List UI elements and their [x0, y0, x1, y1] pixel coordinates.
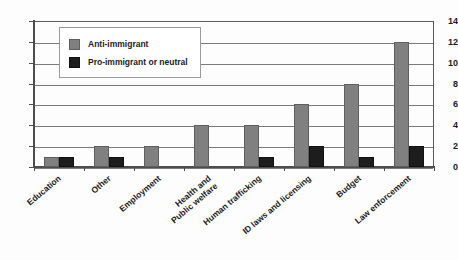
legend-swatch-pro-immigrant: [69, 57, 80, 68]
y-axis-tick-label: 2: [432, 141, 458, 151]
y-axis-tick-label: 14: [432, 16, 458, 26]
x-axis-label: Health andPublic welfare: [163, 174, 219, 226]
y-axis-tick-label: 6: [432, 99, 458, 109]
bar-anti-immigrant: [244, 125, 259, 167]
x-axis-tick-mark: [334, 167, 335, 171]
bar-anti-immigrant: [144, 146, 159, 167]
y-axis-tick-label: 8: [432, 79, 458, 89]
x-axis-tick-mark: [134, 167, 135, 171]
bar-group: [334, 21, 384, 167]
x-axis-tick-mark: [184, 167, 185, 171]
bar-pro-immigrant: [409, 146, 424, 167]
bar-anti-immigrant: [194, 125, 209, 167]
legend-item-anti-immigrant: Anti-immigrant: [69, 35, 200, 53]
bar-anti-immigrant: [294, 104, 309, 167]
bar-pro-immigrant: [59, 157, 74, 167]
bar-group: [234, 21, 284, 167]
bar-chart: 02468101214 EducationOtherEmploymentHeal…: [0, 0, 458, 260]
x-axis-tick-mark: [84, 167, 85, 171]
y-axis-tick-label: 12: [432, 37, 458, 47]
bar-anti-immigrant: [94, 146, 109, 167]
bar-pro-immigrant: [259, 157, 274, 167]
x-axis-label: Human trafficking: [202, 174, 263, 228]
bar-pro-immigrant: [309, 146, 324, 167]
bar-group: [384, 21, 434, 167]
x-axis-tick-mark: [34, 167, 35, 171]
bar-anti-immigrant: [44, 157, 59, 167]
bar-pro-immigrant: [109, 157, 124, 167]
y-axis-tick-label: 10: [432, 58, 458, 68]
x-axis-label: Employment: [118, 174, 163, 214]
y-axis-tick-label: 4: [432, 120, 458, 130]
y-axis-tick-label: 0: [432, 162, 458, 172]
legend-label-pro-immigrant: Pro-immigrant or neutral: [88, 57, 188, 67]
x-axis-label: Law enforcement: [353, 174, 413, 226]
x-axis-label: Other: [89, 174, 113, 196]
x-axis-label: ID laws and licensing: [241, 174, 313, 237]
x-axis-tick-mark: [234, 167, 235, 171]
x-axis-tick-mark: [384, 167, 385, 171]
chart-legend: Anti-immigrant Pro-immigrant or neutral: [59, 27, 201, 78]
bar-pro-immigrant: [359, 157, 374, 167]
legend-item-pro-immigrant: Pro-immigrant or neutral: [69, 53, 200, 71]
legend-swatch-anti-immigrant: [69, 39, 80, 50]
x-axis-tick-mark: [434, 167, 435, 171]
legend-label-anti-immigrant: Anti-immigrant: [88, 39, 148, 49]
bar-group: [284, 21, 334, 167]
bar-anti-immigrant: [344, 84, 359, 167]
x-axis-label: Education: [26, 174, 64, 208]
bar-anti-immigrant: [394, 42, 409, 167]
x-axis-label: Budget: [335, 174, 363, 200]
x-axis-tick-mark: [284, 167, 285, 171]
